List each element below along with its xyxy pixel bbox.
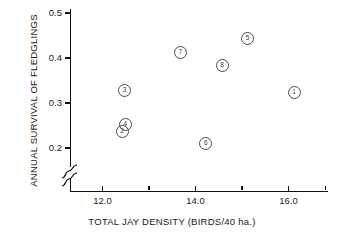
y-tick-0.2: [65, 147, 70, 148]
data-point-3: 3: [118, 84, 131, 97]
data-point-6: 6: [199, 137, 212, 150]
y-tick-0.3: [65, 102, 70, 103]
axis-break-squiggle-icon: [60, 162, 82, 188]
data-point-5: 5: [241, 32, 254, 45]
x-tick-14.0: [195, 186, 196, 191]
x-tick-label-12.0: 12.0: [83, 195, 123, 206]
x-tick-12.0: [102, 186, 103, 191]
x-tick-label-16.0: 16.0: [268, 195, 308, 206]
scatter-plot-figure: ANNUAL SURVIVAL OF FLEDGLINGS TOTAL JAY …: [0, 0, 344, 243]
y-tick-0.4: [65, 57, 70, 58]
data-point-8: 8: [216, 59, 229, 72]
data-point-7: 7: [174, 46, 187, 59]
y-tick-label-0.2: 0.2: [28, 142, 62, 153]
data-point-1: 1: [288, 86, 301, 99]
y-axis-line: [70, 9, 71, 167]
y-tick-label-0.4: 0.4: [28, 52, 62, 63]
y-tick-label-0.3: 0.3: [28, 97, 62, 108]
x-axis-label: TOTAL JAY DENSITY (BIRDS/40 ha.): [0, 216, 344, 227]
x-tick-label-14.0: 14.0: [176, 195, 216, 206]
y-tick-label-0.5: 0.5: [28, 7, 62, 18]
x-tick-16.8: [325, 186, 326, 190]
x-tick-13: [148, 186, 149, 190]
x-tick-16.0: [288, 186, 289, 191]
data-point-4: 4: [119, 118, 132, 131]
x-axis-line: [70, 191, 328, 192]
y-tick-0.5: [65, 12, 70, 13]
x-tick-15: [241, 186, 242, 190]
